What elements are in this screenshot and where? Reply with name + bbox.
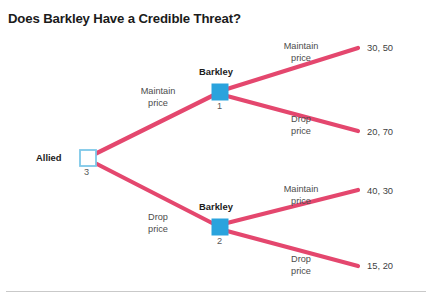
node-label-barkley1: Barkley <box>199 66 233 77</box>
node-allied-square[interactable] <box>80 150 96 166</box>
payoff-value-3: 40, 30 <box>367 185 393 196</box>
payoff-value-4: 15, 20 <box>367 260 393 271</box>
branch-label-line2: price <box>271 125 331 137</box>
branch-label-line2: price <box>128 223 188 235</box>
branch-label-line2: price <box>271 195 331 207</box>
branch-label-line1: Maintain <box>128 85 188 97</box>
branch-label-line2: price <box>271 265 331 277</box>
branch-label-allied-drop: Drop price <box>128 211 188 235</box>
node-number-barkley1: 1 <box>217 101 222 111</box>
branch-label-barkley2-drop: Drop price <box>271 253 331 277</box>
bottom-divider <box>6 291 426 292</box>
node-barkley2-square[interactable] <box>212 219 228 235</box>
node-label-allied: Allied <box>36 152 62 163</box>
node-label-barkley2: Barkley <box>199 201 233 212</box>
branch-label-line1: Drop <box>128 211 188 223</box>
payoff-value-2: 20, 70 <box>367 126 393 137</box>
branch-label-line2: price <box>128 97 188 109</box>
branch-label-line1: Maintain <box>271 40 331 52</box>
branch-label-line2: price <box>271 52 331 64</box>
node-barkley1-square[interactable] <box>212 84 228 100</box>
branch-label-line1: Drop <box>271 113 331 125</box>
node-number-barkley2: 2 <box>217 236 222 246</box>
branch-label-line1: Maintain <box>271 183 331 195</box>
branch-label-barkley2-maintain: Maintain price <box>271 183 331 207</box>
branch-label-barkley1-maintain: Maintain price <box>271 40 331 64</box>
branch-label-line1: Drop <box>271 253 331 265</box>
node-number-allied: 3 <box>84 167 89 177</box>
payoff-value-1: 30, 50 <box>367 42 393 53</box>
branch-label-barkley1-drop: Drop price <box>271 113 331 137</box>
game-tree-figure: Does Barkley Have a Credible Threat? All… <box>0 0 432 304</box>
branch-label-allied-maintain: Maintain price <box>128 85 188 109</box>
